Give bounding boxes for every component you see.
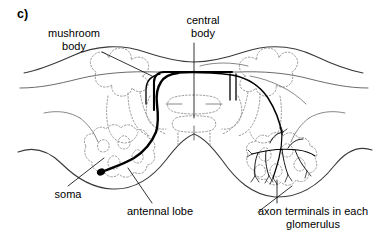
neuron-collateral-main xyxy=(252,149,315,156)
label-mushroom-body: mushroom body xyxy=(33,27,115,52)
label-central-body: central body xyxy=(165,14,241,39)
antennal-lobe-right-glomerulus-e xyxy=(255,165,266,177)
antennal-lobe-left-glomerulus-a xyxy=(98,140,110,152)
label-soma: soma xyxy=(45,188,91,201)
label-axon-terminals: axon terminals in each glomerulus xyxy=(243,205,383,230)
neuron-terminal-branch-3 xyxy=(282,149,288,175)
neuron-terminal-branch-2 xyxy=(266,151,269,176)
neuron-terminal-branch-4 xyxy=(295,150,307,171)
panel-label: c) xyxy=(17,7,28,21)
detail-right-1 xyxy=(309,112,345,118)
neuron-terminal-branch-1 xyxy=(255,153,258,176)
brain-outline-group xyxy=(18,47,372,197)
detail-right-2 xyxy=(291,118,309,142)
right-lateral-neuropil xyxy=(222,96,242,129)
neuron-twig-3 xyxy=(285,175,292,182)
antennal-lobe-right-glomerulus-a xyxy=(259,148,271,161)
detail-right-sweep xyxy=(250,76,306,104)
left-upper-inner-contour xyxy=(20,72,194,88)
central-body-right-bracket xyxy=(230,74,236,100)
projection-neuron xyxy=(96,73,315,184)
figure-root: c) mushroom body central body soma anten… xyxy=(0,0,389,244)
neuron-terminal-trunk xyxy=(273,134,282,178)
internal-detail-strokes xyxy=(44,63,345,142)
neuron-terminal-branch-6 xyxy=(288,139,303,148)
ventral-contour-right xyxy=(194,134,372,197)
central-tract-group xyxy=(146,72,236,110)
mushroom-body-right-peduncle-b xyxy=(222,92,248,134)
detail-left-1 xyxy=(44,112,80,118)
ventral-contour-left xyxy=(18,134,194,189)
label-antennal-lobe: antennal lobe xyxy=(119,205,201,218)
detail-upper-left-sweep xyxy=(200,63,248,66)
neuron-twig-4 xyxy=(305,171,311,178)
